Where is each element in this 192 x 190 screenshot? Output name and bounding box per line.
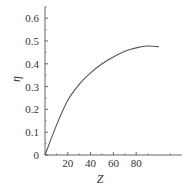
data-line	[45, 46, 159, 155]
y-axis-label: η	[9, 76, 23, 82]
y-tick-label: 0.3	[25, 81, 39, 93]
y-tick-label: 0.5	[25, 35, 39, 47]
y-tick-label: 0	[34, 149, 40, 161]
y-tick-label: 0.6	[25, 12, 39, 24]
y-tick-label: 0.1	[25, 126, 39, 138]
axes	[45, 7, 182, 155]
y-tick-label: 0.2	[25, 103, 39, 115]
efficiency-chart: 2040608000.10.20.30.40.50.6 Z η	[0, 0, 192, 190]
y-tick-label: 0.4	[25, 58, 39, 70]
x-tick-label: 40	[85, 157, 97, 169]
ticks: 2040608000.10.20.30.40.50.6	[25, 7, 170, 169]
x-axis-label: Z	[97, 172, 104, 186]
x-tick-label: 20	[62, 157, 74, 169]
x-tick-label: 80	[131, 157, 143, 169]
x-tick-label: 60	[108, 157, 120, 169]
